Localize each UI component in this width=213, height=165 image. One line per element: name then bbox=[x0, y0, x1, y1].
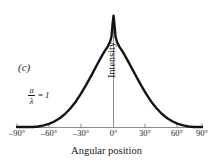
ratio-numerator: a bbox=[28, 86, 34, 95]
x-tick-label-minus30: –30° bbox=[73, 129, 89, 138]
y-axis-title: Intensity bbox=[107, 42, 117, 78]
ratio-fraction: a λ bbox=[28, 86, 35, 105]
x-axis-title: Angular position bbox=[0, 146, 213, 157]
ratio-value: 1 bbox=[45, 91, 50, 100]
x-tick-label-zero: 0° bbox=[110, 129, 118, 138]
panel-label: (c) bbox=[18, 62, 30, 73]
slit-width-ratio-annotation: a λ = 1 bbox=[28, 86, 50, 105]
ratio-denominator: λ bbox=[29, 96, 35, 105]
x-tick-label-minus60: –60° bbox=[41, 129, 57, 138]
x-tick-label-plus90: 90° bbox=[196, 129, 208, 138]
x-tick-label-minus90: –90° bbox=[9, 129, 25, 138]
equals-sign: = bbox=[38, 91, 43, 100]
x-tick-label-plus30: 30° bbox=[139, 129, 151, 138]
diffraction-intensity-figure: (c) a λ = 1 Intensity –90° –60° –30° 0° … bbox=[0, 0, 213, 165]
x-tick-label-plus60: 60° bbox=[171, 129, 183, 138]
plot-canvas bbox=[0, 0, 213, 165]
